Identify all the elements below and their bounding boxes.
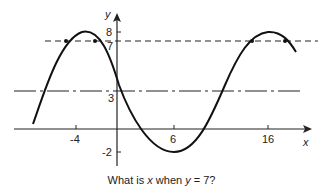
y-tick-label: 3 [108,92,114,104]
x-tick-label: 6 [170,133,176,145]
question-caption: What is x when y = 7? [0,174,323,186]
y-tick-label: 8 [106,26,112,38]
x-axis-label: x [302,136,309,148]
y-axis-label: y [104,8,112,20]
y-tick-label: 7 [107,40,113,52]
intersection-point [283,39,287,43]
chart-canvas: y x -4 6 16 8 7 3 -2 [0,0,323,191]
intersection-point [93,39,97,43]
y-tick-label: -2 [102,146,112,158]
x-tick-label: 16 [262,133,274,145]
intersection-point [64,39,68,43]
intersection-point [250,39,254,43]
x-tick-label: -4 [70,133,80,145]
